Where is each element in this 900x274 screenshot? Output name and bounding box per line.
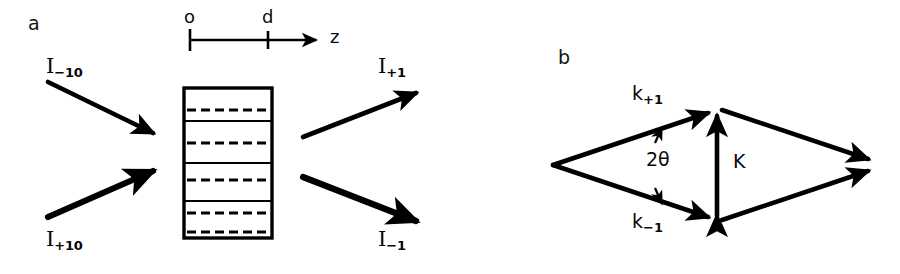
z-axis-group	[190, 29, 316, 51]
incident-beam-minus-10-arrow	[48, 82, 153, 133]
diffracted-beam-minus-1-arrow	[303, 177, 416, 221]
figure-canvas: a b o d z I−10 I+10 I+1 I−1 k+1 k−1 K 2θ	[0, 0, 900, 274]
diagram-geometry-layer	[0, 0, 900, 274]
incident-beam-plus-10-arrow	[48, 171, 153, 217]
wavevector-diagram-group	[553, 110, 868, 220]
k-plus-one-arrow	[553, 113, 708, 165]
upper-resultant-arrow	[722, 110, 868, 159]
lower-resultant-arrow	[722, 171, 868, 220]
k-minus-one-arrow	[553, 165, 708, 217]
grating-slab-group	[184, 88, 272, 238]
diffracted-beam-plus-1-arrow	[303, 93, 416, 137]
